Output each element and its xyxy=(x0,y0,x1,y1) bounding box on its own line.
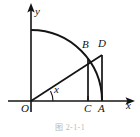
point-label-C: C xyxy=(84,103,91,114)
angle-arc xyxy=(51,91,54,101)
figure-caption: 图 2-1-1 xyxy=(0,124,140,132)
point-label-A: A xyxy=(98,103,105,114)
point-label-O: O xyxy=(21,103,29,114)
figure-canvas xyxy=(0,0,140,137)
point-label-D: D xyxy=(98,38,106,49)
segment-OD xyxy=(31,55,102,101)
point-label-B: B xyxy=(82,39,89,50)
y-axis-label: y xyxy=(35,6,40,17)
x-axis-label: x xyxy=(126,100,131,111)
geometry-figure: y x O C A B D x 图 2-1-1 xyxy=(0,0,140,137)
circle-arc xyxy=(31,30,102,101)
y-axis xyxy=(27,3,34,112)
angle-label: x xyxy=(54,84,59,95)
